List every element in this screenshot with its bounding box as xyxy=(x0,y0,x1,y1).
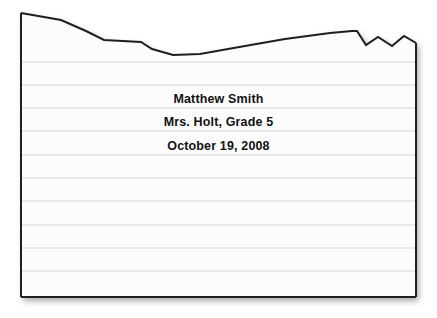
screenshot-canvas: Matthew Smith Mrs. Holt, Grade 5 October… xyxy=(0,0,437,318)
torn-paper-illustration xyxy=(0,0,437,318)
